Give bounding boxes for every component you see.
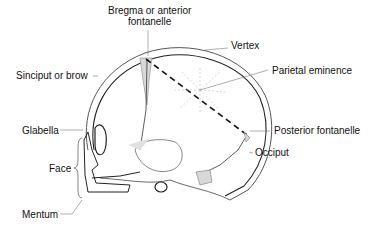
label-face: Face — [49, 163, 71, 174]
external-auditory-meatus — [155, 182, 167, 192]
mastoid-fontanelle — [196, 170, 212, 185]
vertex-diameter-line — [146, 59, 247, 135]
label-sinciput: Sinciput or brow — [16, 70, 88, 81]
label-bregma-line2: fontanelle — [108, 16, 191, 27]
occiput-leader — [249, 152, 253, 153]
label-glabella: Glabella — [22, 125, 59, 136]
outer-vault-outline — [86, 48, 271, 200]
posterior-fontanelle-mark — [244, 132, 250, 142]
orbit — [95, 125, 106, 155]
face-outline — [84, 132, 130, 192]
lambdoid-suture — [200, 135, 247, 175]
mentum-leader-curve — [72, 200, 82, 214]
parietal-leader — [200, 70, 268, 90]
maxilla — [92, 172, 140, 178]
label-posterior-fontanelle: Posterior fontanelle — [274, 125, 360, 136]
inner-vault-outline — [93, 55, 266, 196]
label-occiput: Occiput — [255, 147, 289, 158]
label-vertex: Vertex — [231, 40, 259, 51]
face-bracket — [74, 138, 82, 198]
temporal-region-fill — [128, 138, 150, 150]
label-bregma: Bregma or anterior fontanelle — [108, 5, 191, 27]
label-parietal-eminence: Parietal eminence — [272, 65, 352, 76]
skull-diagram: Bregma or anterior fontanelle Vertex Sin… — [0, 0, 377, 227]
label-bregma-line1: Bregma or anterior — [108, 5, 191, 16]
fetal-skull-illustration — [0, 0, 377, 227]
label-mentum: Mentum — [22, 209, 58, 220]
vertex-leader — [205, 48, 228, 50]
